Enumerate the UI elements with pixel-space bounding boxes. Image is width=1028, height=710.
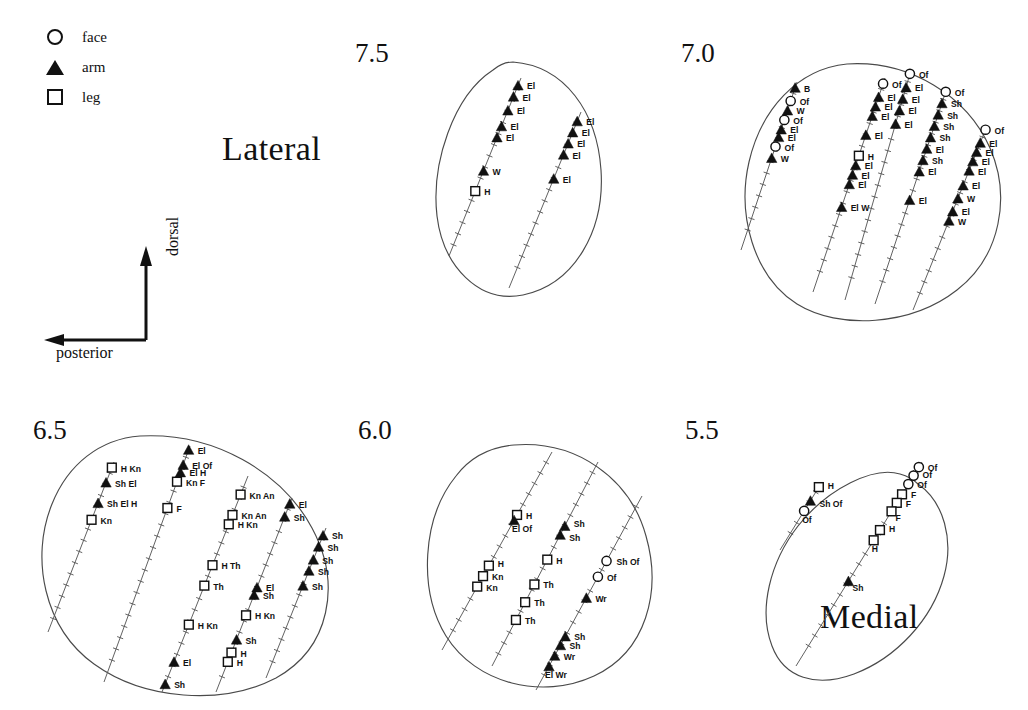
depth-tick bbox=[850, 573, 855, 576]
site-label: El bbox=[582, 128, 590, 138]
depth-tick bbox=[610, 547, 616, 550]
site-label: El bbox=[573, 151, 581, 161]
site-label: El bbox=[875, 131, 883, 141]
depth-tick bbox=[831, 603, 836, 606]
section-panel-5-5: HSh OfOfOfOfOfFFFHHSh bbox=[740, 440, 970, 690]
site-label: El bbox=[577, 139, 585, 149]
depth-tick bbox=[570, 621, 576, 624]
site-marker-arm bbox=[508, 92, 518, 102]
site-marker-face bbox=[941, 87, 950, 96]
site-marker-arm bbox=[805, 496, 815, 506]
section-number-5-5: 5.5 bbox=[685, 415, 719, 446]
penetration-track bbox=[48, 462, 114, 632]
penetration-track bbox=[536, 496, 642, 690]
site-label: H Kn bbox=[198, 621, 218, 631]
site-marker-arm bbox=[844, 179, 854, 189]
section-drawing-7-0: BOfWOfElElOfWOfElElElElHElElElEl WOfElEl… bbox=[735, 60, 1015, 330]
site-label: Sh bbox=[263, 591, 274, 601]
site-marker-arm bbox=[964, 166, 974, 176]
section-number-7-5: 7.5 bbox=[355, 38, 389, 69]
site-marker-arm bbox=[169, 657, 179, 667]
depth-tick bbox=[806, 644, 811, 647]
site-label: El bbox=[198, 446, 206, 456]
site-marker-arm bbox=[567, 127, 577, 137]
site-label: El bbox=[299, 500, 307, 510]
penetration-track bbox=[509, 112, 581, 288]
depth-tick bbox=[543, 461, 549, 464]
site-label: H bbox=[498, 559, 504, 569]
site-marker-arm bbox=[183, 445, 193, 455]
site-label: El bbox=[506, 133, 514, 143]
site-label: Th bbox=[213, 582, 224, 592]
site-marker-arm bbox=[937, 98, 947, 108]
site-marker-leg bbox=[854, 151, 863, 160]
site-label: Of bbox=[955, 88, 965, 98]
site-marker-leg bbox=[107, 463, 116, 472]
site-label: Wr bbox=[564, 652, 576, 662]
site-label: El bbox=[936, 145, 944, 155]
site-marker-leg bbox=[473, 582, 482, 591]
depth-tick bbox=[468, 597, 474, 600]
legend-label-leg: leg bbox=[82, 89, 100, 106]
depth-tick bbox=[532, 482, 538, 485]
depth-tick bbox=[812, 634, 817, 637]
site-label: H bbox=[556, 556, 562, 566]
section-drawing-6-5: H KnSh ElSh El HKnElEl OfEl HKn FFKn AnK… bbox=[30, 432, 360, 697]
site-marker-leg bbox=[184, 620, 193, 629]
site-marker-arm bbox=[870, 101, 880, 111]
section-panel-6-5: H KnSh ElSh El HKnElEl OfEl HKn FFKn AnK… bbox=[30, 432, 360, 697]
site-marker-arm bbox=[933, 110, 943, 120]
depth-tick bbox=[622, 526, 628, 529]
site-label: B bbox=[804, 84, 810, 94]
site-marker-arm bbox=[944, 216, 954, 226]
site-marker-arm bbox=[231, 635, 241, 645]
site-label: El bbox=[919, 196, 927, 206]
site-marker-arm bbox=[503, 105, 513, 115]
site-label: F bbox=[176, 504, 181, 514]
depth-tick bbox=[576, 610, 582, 613]
penetration-track-group-7-5: ElElElElElWHElElElElEl bbox=[449, 78, 594, 288]
site-marker-leg bbox=[208, 561, 217, 570]
site-label: El Wr bbox=[545, 670, 567, 680]
site-marker-arm bbox=[975, 138, 985, 148]
site-label: H bbox=[828, 481, 834, 491]
orientation-axes: dorsal posterior bbox=[28, 240, 208, 380]
site-marker-leg bbox=[898, 490, 907, 499]
site-marker-arm bbox=[549, 174, 559, 184]
site-label: Kn bbox=[101, 516, 112, 526]
legend-label-arm: arm bbox=[82, 59, 105, 76]
site-label: Of bbox=[919, 70, 929, 80]
site-marker-leg bbox=[471, 187, 480, 196]
site-label: Sh bbox=[318, 567, 329, 577]
site-marker-arm bbox=[922, 144, 932, 154]
site-label: W bbox=[493, 167, 502, 177]
depth-tick bbox=[503, 534, 509, 537]
section-drawing-5-5: HSh OfOfOfOfOfFFFHHSh bbox=[740, 440, 970, 690]
site-marker-leg bbox=[173, 477, 182, 486]
site-label: Sh bbox=[852, 583, 863, 593]
site-marker-arm bbox=[890, 119, 900, 129]
site-label: H Kn bbox=[238, 520, 258, 530]
site-label: Sh bbox=[574, 519, 585, 529]
depth-tick bbox=[450, 629, 456, 632]
depth-tick bbox=[599, 568, 605, 571]
site-marker-arm bbox=[901, 82, 911, 92]
site-label: Kn F bbox=[186, 478, 205, 488]
site-marker-leg bbox=[876, 526, 885, 535]
depth-tick bbox=[540, 567, 546, 570]
site-marker-leg bbox=[87, 515, 96, 524]
site-marker-arm bbox=[850, 160, 860, 170]
depth-tick bbox=[579, 492, 585, 495]
site-marker-arm bbox=[782, 105, 792, 115]
depth-tick bbox=[496, 652, 502, 655]
site-label: El bbox=[928, 167, 936, 177]
site-marker-arm bbox=[776, 124, 786, 134]
site-label: Sh bbox=[569, 533, 580, 543]
site-marker-arm bbox=[492, 132, 502, 142]
site-marker-leg bbox=[892, 498, 901, 507]
site-marker-leg bbox=[530, 580, 539, 589]
site-label: El bbox=[858, 180, 866, 190]
site-label: El bbox=[517, 106, 525, 116]
site-label: El bbox=[915, 83, 923, 93]
legend-label-face: face bbox=[82, 29, 107, 46]
